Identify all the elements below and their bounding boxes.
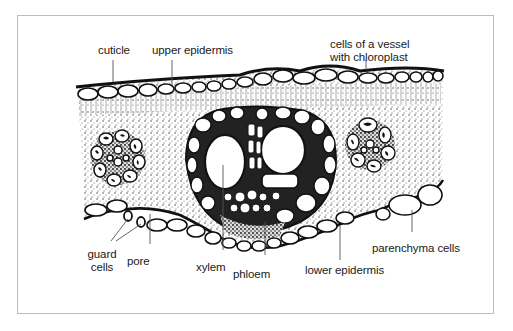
leaf-cross-section-illustration <box>0 0 513 331</box>
label-phloem: phloem <box>233 268 270 281</box>
label-pore: pore <box>127 255 150 268</box>
label-parenchyma-cells: parenchyma cells <box>372 242 460 255</box>
label-guard-cells-line1: guard <box>84 248 120 261</box>
label-upper-epidermis: upper epidermis <box>152 44 233 57</box>
label-cells-of-vessel-line2: with chloroplast <box>330 51 406 64</box>
label-guard-cells: guard cells <box>84 248 120 274</box>
label-guard-cells-line2: cells <box>84 261 120 274</box>
left-vascular-bundle <box>91 130 145 186</box>
label-cuticle: cuticle <box>98 44 130 57</box>
label-xylem: xylem <box>196 261 226 274</box>
label-lower-epidermis: lower epidermis <box>305 264 384 277</box>
label-cells-of-vessel: cells of a vessel with chloroplast <box>330 38 406 64</box>
label-cells-of-vessel-line1: cells of a vessel <box>330 38 406 51</box>
